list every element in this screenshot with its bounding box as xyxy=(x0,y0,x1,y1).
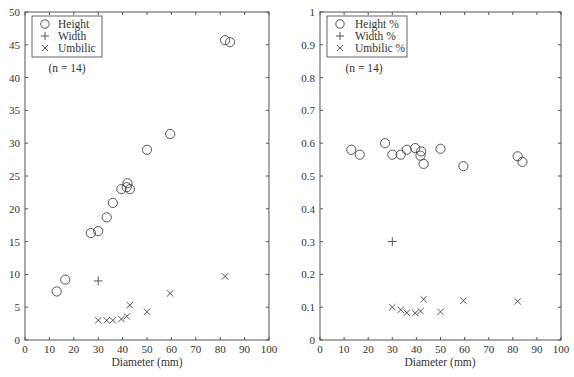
legend: Height Width Umbilic xyxy=(32,16,102,57)
y-tick-label: 30 xyxy=(9,137,21,149)
x-tick-label: 60 xyxy=(459,343,471,355)
legend-label-width: Width xyxy=(58,30,87,42)
data-point-plus-icon xyxy=(388,237,397,246)
data-point-x-icon xyxy=(104,317,110,323)
y-tick-label: 50 xyxy=(9,6,21,18)
x-tick-label: 50 xyxy=(142,343,154,355)
data-point-circle-icon xyxy=(102,213,111,222)
sample-size-annotation: (n = 14) xyxy=(345,62,382,75)
legend-label-width-pct: Width % xyxy=(355,30,396,42)
data-point-circle-icon xyxy=(142,145,151,154)
x-tick-label: 70 xyxy=(190,343,202,355)
x-tick-label: 10 xyxy=(44,343,56,355)
right-scatter-chart: 0102030405060708090100 00.10.20.30.40.50… xyxy=(301,6,570,369)
data-point-circle-icon xyxy=(61,275,70,284)
data-point-x-icon xyxy=(95,317,101,323)
data-point-circle-icon xyxy=(436,144,445,153)
y-tick-label: 35 xyxy=(9,104,21,116)
x-tick-label: 80 xyxy=(507,343,519,355)
x-tick-label: 90 xyxy=(239,343,251,355)
data-point-x-icon xyxy=(437,309,443,315)
x-tick-label: 50 xyxy=(435,343,447,355)
y-tick-label: 0.2 xyxy=(301,268,315,280)
data-point-circle-icon xyxy=(380,139,389,148)
y-tick-label: 0 xyxy=(310,334,316,346)
figure-canvas: 0102030405060708090100 05101520253035404… xyxy=(0,0,574,377)
x-tick-label: 0 xyxy=(22,343,28,355)
y-tick-label: 0.1 xyxy=(301,301,315,313)
y-tick-label: 0.9 xyxy=(301,39,315,51)
data-point-circle-icon xyxy=(396,150,405,159)
legend-label-umbilic: Umbilic xyxy=(58,42,96,54)
y-tick-label: 0.4 xyxy=(301,203,315,215)
data-point-x-icon xyxy=(514,298,520,304)
data-point-circle-icon xyxy=(388,150,397,159)
data-point-x-icon xyxy=(127,302,133,308)
y-tick-label: 0.8 xyxy=(301,72,315,84)
left-scatter-chart: 0102030405060708090100 05101520253035404… xyxy=(9,6,278,369)
data-point-circle-icon xyxy=(117,185,126,194)
legend-label-umbilic-pct: Umbilic % xyxy=(355,42,406,54)
x-tick-label: 10 xyxy=(339,343,351,355)
data-point-x-icon xyxy=(420,296,426,302)
y-tick-label: 20 xyxy=(9,203,21,215)
y-tick-label: 5 xyxy=(15,301,21,313)
data-point-x-icon xyxy=(222,273,228,279)
data-point-circle-icon xyxy=(166,129,175,138)
data-point-x-icon xyxy=(412,310,418,316)
data-point-x-icon xyxy=(389,304,395,310)
data-point-plus-icon xyxy=(94,276,103,285)
sample-size-annotation: (n = 14) xyxy=(48,62,85,75)
data-point-circle-icon xyxy=(513,152,522,161)
data-point-x-icon xyxy=(144,309,150,315)
x-tick-label: 70 xyxy=(483,343,495,355)
y-tick-label: 45 xyxy=(9,39,21,51)
x-tick-label: 100 xyxy=(261,343,278,355)
data-point-circle-icon xyxy=(518,157,527,166)
data-point-x-icon xyxy=(398,307,404,313)
y-tick-label: 0.6 xyxy=(301,137,315,149)
x-tick-label: 80 xyxy=(215,343,227,355)
x-axis-title: Diameter (mm) xyxy=(111,356,182,369)
data-point-circle-icon xyxy=(125,185,134,194)
data-point-x-icon xyxy=(110,317,116,323)
x-tick-label: 30 xyxy=(93,343,105,355)
data-point-circle-icon xyxy=(347,145,356,154)
x-axis-title: Diameter (mm) xyxy=(404,356,475,369)
x-tick-label: 60 xyxy=(166,343,178,355)
x-tick-label: 0 xyxy=(317,343,323,355)
x-tick-label: 40 xyxy=(117,343,129,355)
y-tick-label: 0.5 xyxy=(301,170,315,182)
x-tick-label: 30 xyxy=(387,343,399,355)
y-tick-label: 0 xyxy=(15,334,21,346)
data-point-circle-icon xyxy=(419,159,428,168)
y-tick-label: 15 xyxy=(9,236,21,248)
data-point-x-icon xyxy=(417,308,423,314)
y-tick-label: 25 xyxy=(9,170,21,182)
data-point-x-icon xyxy=(460,297,466,303)
data-points xyxy=(347,139,527,317)
y-tick-label: 0.7 xyxy=(301,104,315,116)
data-point-x-icon xyxy=(404,310,410,316)
x-tick-label: 40 xyxy=(411,343,423,355)
data-point-circle-icon xyxy=(108,198,117,207)
data-point-x-icon xyxy=(167,290,173,296)
y-tick-label: 0.3 xyxy=(301,236,315,248)
data-point-circle-icon xyxy=(355,150,364,159)
data-point-circle-icon xyxy=(52,287,61,296)
data-point-circle-icon xyxy=(402,145,411,154)
x-tick-label: 90 xyxy=(531,343,543,355)
y-tick-label: 10 xyxy=(9,268,21,280)
data-points xyxy=(52,36,234,324)
x-tick-label: 20 xyxy=(363,343,375,355)
data-point-circle-icon xyxy=(459,162,468,171)
x-tick-label: 20 xyxy=(68,343,80,355)
y-tick-label: 1 xyxy=(310,6,316,18)
legend: Height % Width % Umbilic % xyxy=(327,16,407,57)
x-tick-label: 100 xyxy=(553,343,570,355)
y-tick-label: 40 xyxy=(9,72,21,84)
